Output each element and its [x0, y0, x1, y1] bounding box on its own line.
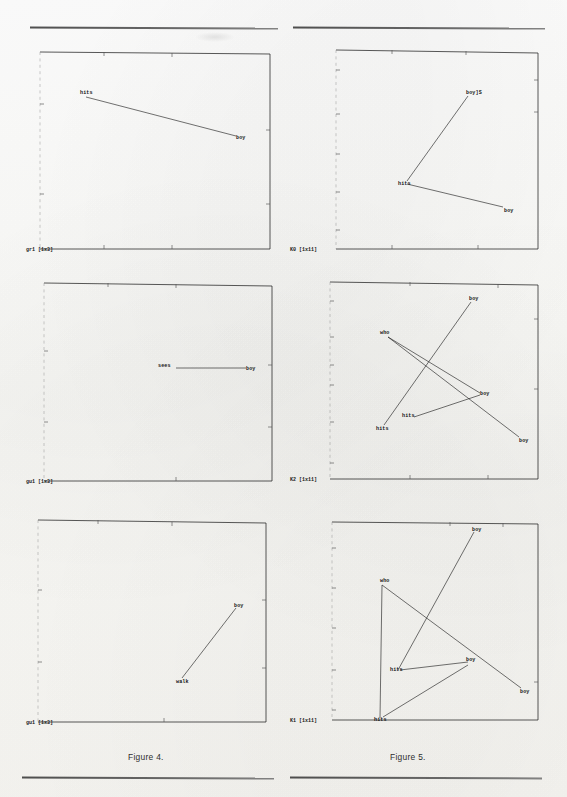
node-label: walk: [176, 679, 189, 685]
node-label: boy: [519, 438, 528, 444]
figure-5-caption: Figure 5.: [390, 752, 426, 762]
bottom-left-rule: [22, 777, 274, 780]
graph-nodes: sees boy: [158, 363, 255, 372]
figure-4-caption: Figure 4.: [128, 752, 164, 762]
node-label: boy: [469, 296, 478, 302]
node-label: hits: [402, 413, 415, 419]
node-label: boy: [466, 657, 475, 663]
graph-nodes: hits boy: [80, 90, 245, 141]
node-label: hits: [80, 90, 93, 96]
panel-axis-label: K2 [1x11]: [290, 477, 317, 483]
panel-axis-label: gr1 [1x3]: [26, 247, 53, 253]
node-label: boy: [236, 135, 245, 141]
graph-edges: [407, 96, 503, 207]
graph-edges: [182, 608, 236, 678]
top-left-rule: [30, 26, 278, 29]
panel-axis-label: gu1 [1x3]: [26, 720, 53, 726]
plot-panel-gu1: sees boy gu1 [1x3]: [24, 277, 276, 489]
plot-panel-gu1-bottom: boy walk gu1 [1x3]: [24, 510, 276, 728]
node-label: sees: [158, 363, 171, 369]
top-right-rule: [293, 26, 545, 29]
bottom-right-rule: [290, 777, 542, 780]
node-label: boy]S: [466, 90, 482, 96]
plot-panel-k0: boy]S hits boy K0 [1x11]: [288, 44, 544, 259]
panel-axis-label: K0 [1x11]: [290, 247, 317, 253]
plot-panel-k1: boy who boy hits boy hits K1 [1x11]: [288, 510, 544, 728]
graph-edges: [380, 532, 521, 718]
node-label: who: [380, 330, 389, 336]
node-label: boy: [472, 527, 481, 533]
plot-panel-gr1: hits boy gr1 [1x3]: [24, 44, 276, 259]
node-label: who: [380, 578, 389, 584]
node-label: hits: [390, 667, 403, 673]
node-label: boy: [480, 391, 489, 397]
node-label: hits: [398, 181, 411, 187]
graph-edges: [86, 97, 236, 136]
node-label: boy: [520, 689, 529, 695]
node-label: hits: [374, 717, 387, 723]
node-label: boy: [246, 366, 255, 372]
scan-smudge: [195, 32, 235, 42]
node-label: hits: [376, 426, 389, 432]
node-label: boy: [504, 208, 513, 214]
graph-nodes: boy who boy hits boy hits: [374, 527, 529, 723]
graph-nodes: boy who boy hits hits boy: [376, 296, 528, 444]
plot-panel-k2: boy who boy hits hits boy K2 [1x11]: [288, 277, 544, 489]
panel-axis-label: K1 [1x11]: [290, 718, 317, 724]
panel-axis-label: gu1 [1x3]: [26, 479, 53, 485]
node-label: boy: [234, 603, 243, 609]
